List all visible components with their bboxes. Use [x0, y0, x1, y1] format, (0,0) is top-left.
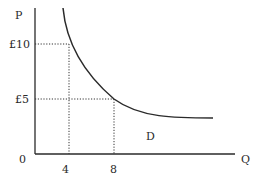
x-tick-4: 4	[62, 163, 69, 176]
origin-label: 0	[19, 153, 26, 166]
x-tick-8: 8	[110, 163, 117, 176]
demand-curve-chart: P £10 £5 0 4 8 D Q	[0, 0, 259, 178]
y-tick-10: £10	[9, 38, 30, 51]
guide-lines	[35, 44, 114, 154]
x-axis-label: Q	[241, 153, 250, 166]
demand-curve	[63, 8, 213, 118]
y-axis-label: P	[15, 9, 23, 22]
curve-label-d: D	[146, 130, 155, 143]
y-tick-5: £5	[15, 93, 29, 106]
